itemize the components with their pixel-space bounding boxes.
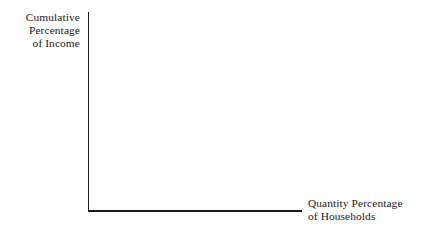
y-axis-title-line-1: Cumulative bbox=[26, 11, 80, 24]
x-axis-title-line-2: of Households bbox=[308, 210, 403, 223]
lorenz-curve-axes-figure: Cumulative Percentage of Income Quantity… bbox=[0, 0, 443, 238]
y-axis-title-line-3: of Income bbox=[26, 37, 80, 50]
x-axis-title: Quantity Percentage of Households bbox=[308, 197, 403, 223]
y-axis-title-line-2: Percentage bbox=[26, 24, 80, 37]
plot-area bbox=[89, 12, 301, 211]
x-axis-title-line-1: Quantity Percentage bbox=[308, 197, 403, 210]
y-axis-title: Cumulative Percentage of Income bbox=[26, 11, 80, 51]
